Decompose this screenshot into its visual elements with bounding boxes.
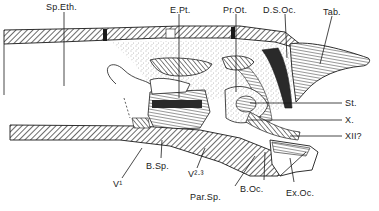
label-pr-ot: Pr.Ot. xyxy=(223,5,247,15)
label-par-sp: Par.Sp. xyxy=(190,192,221,202)
label-d-s-oc: D.S.Oc. xyxy=(263,5,296,15)
label-st: St. xyxy=(345,98,357,108)
label-ex-oc: Ex.Oc. xyxy=(286,188,314,198)
label-b-oc: B.Oc. xyxy=(240,184,264,194)
label-b-sp: B.Sp. xyxy=(146,161,169,171)
label-v1: V¹ xyxy=(113,179,122,189)
label-x: X. xyxy=(345,115,354,125)
skull-section-drawing xyxy=(0,0,379,211)
label-tab: Tab. xyxy=(323,7,341,17)
label-e-pt: E.Pt. xyxy=(170,5,191,15)
label-sp-eth: Sp.Eth. xyxy=(46,2,77,12)
label-xii: XII? xyxy=(345,131,362,141)
label-v23: V²·³ xyxy=(188,169,204,179)
tabular-bone xyxy=(290,43,370,102)
exoccipital xyxy=(270,140,318,176)
